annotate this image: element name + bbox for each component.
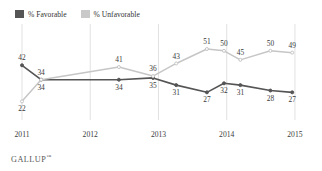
data-point-label: 27	[288, 96, 295, 104]
x-tick-label-2014: 2014	[219, 130, 234, 140]
data-point[interactable]	[152, 75, 155, 78]
data-point-label: 34	[37, 69, 44, 77]
data-point-label: 32	[220, 87, 227, 95]
data-point[interactable]	[205, 48, 208, 51]
series-line-unfavorable	[22, 49, 292, 101]
data-point-label: 28	[267, 95, 274, 103]
data-point[interactable]	[239, 58, 242, 61]
gridlines	[22, 24, 295, 120]
data-point[interactable]	[222, 82, 225, 85]
data-point-label: 49	[288, 42, 295, 50]
data-point[interactable]	[175, 84, 178, 87]
source-label: GALLUP	[11, 155, 46, 164]
chart-figure: % Favorable % Unfavorable 42343435312732…	[0, 0, 322, 171]
legend-item-unfavorable[interactable]: % Unfavorable	[81, 10, 140, 19]
data-point-label: 43	[172, 53, 179, 61]
x-tick-label-2015: 2015	[287, 130, 302, 140]
data-point-label: 45	[237, 49, 244, 57]
data-point[interactable]	[175, 62, 178, 65]
data-point-label: 50	[267, 40, 274, 48]
data-point[interactable]	[239, 84, 242, 87]
data-point-label: 27	[203, 96, 210, 104]
x-tick-label-2012: 2012	[83, 130, 98, 140]
data-point-label: 34	[115, 84, 122, 92]
data-point[interactable]	[291, 91, 294, 94]
trademark-symbol: ™	[46, 154, 51, 159]
data-point[interactable]	[117, 78, 120, 81]
data-point[interactable]	[222, 49, 225, 52]
data-point-label: 35	[149, 82, 156, 90]
data-point[interactable]	[21, 64, 24, 67]
data-point-label: 31	[237, 89, 244, 97]
legend-item-favorable[interactable]: % Favorable	[15, 10, 67, 19]
x-axis: 20112012201320142015	[0, 130, 322, 144]
data-point[interactable]	[269, 89, 272, 92]
x-tick-label-2011: 2011	[15, 130, 30, 140]
data-point[interactable]	[40, 78, 43, 81]
series-line-favorable	[22, 65, 292, 92]
data-point[interactable]	[205, 91, 208, 94]
legend-swatch-favorable	[15, 10, 24, 18]
chart-title	[10, 0, 240, 2]
series-lines	[21, 48, 294, 103]
chart-source-attribution: GALLUP™	[11, 152, 51, 165]
data-point-label: 36	[149, 65, 156, 73]
data-point-label: 50	[220, 40, 227, 48]
data-point[interactable]	[291, 51, 294, 54]
chart-legend: % Favorable % Unfavorable	[15, 8, 140, 20]
data-point-label: 51	[203, 38, 210, 46]
data-point[interactable]	[269, 49, 272, 52]
data-point-label: 41	[115, 56, 122, 64]
data-point[interactable]	[117, 66, 120, 69]
data-point-label: 42	[18, 54, 25, 62]
x-tick-label-2013: 2013	[151, 130, 166, 140]
legend-label-unfavorable: % Unfavorable	[94, 10, 140, 19]
data-point-label: 34	[37, 84, 44, 92]
plot-area: 4234343531273231282722344136435150455049	[0, 24, 322, 128]
legend-swatch-unfavorable	[81, 10, 90, 18]
data-point-label: 31	[172, 89, 179, 97]
data-point-label: 22	[18, 105, 25, 113]
data-point[interactable]	[21, 100, 24, 103]
legend-label-favorable: % Favorable	[28, 10, 67, 19]
